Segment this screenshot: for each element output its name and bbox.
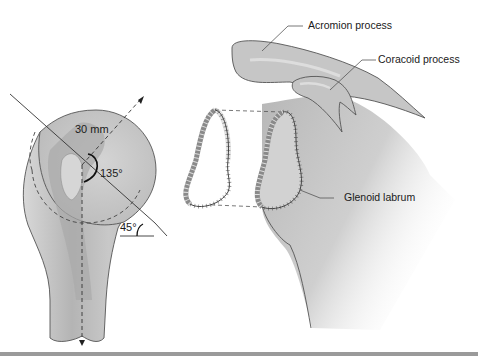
glenoid-labrum-rings <box>186 110 302 209</box>
inclination-angle: 45° <box>120 222 137 233</box>
neck-shaft-angle: 135° <box>100 168 123 179</box>
bottom-divider <box>0 352 478 356</box>
head-radius-measurement: 30 mm <box>75 124 109 135</box>
anatomy-figure: Acromion process Coracoid process Glenoi… <box>0 0 478 360</box>
acromion-process-label: Acromion process <box>308 20 392 31</box>
coracoid-process-label: Coracoid process <box>378 54 460 65</box>
glenoid-labrum-label: Glenoid labrum <box>344 192 415 203</box>
